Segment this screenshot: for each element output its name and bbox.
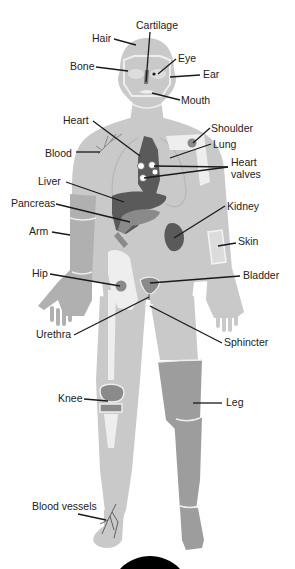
leader-arm [52,232,70,235]
label-eye: Eye [178,52,196,64]
label-heart-valves-line2: valves [231,168,261,180]
label-shoulder: Shoulder [211,122,254,134]
label-liver: Liver [38,175,61,187]
label-heart: Heart [63,114,89,126]
label-urethra: Urethra [36,328,71,340]
label-blood-vessels: Blood vessels [32,500,97,512]
label-knee: Knee [58,392,83,404]
label-cartilage: Cartilage [136,19,178,31]
label-mouth: Mouth [181,94,210,106]
label-pancreas: Pancreas [11,197,55,209]
skin-patch [208,230,226,264]
label-leg: Leg [226,396,244,408]
label-skin: Skin [238,235,259,247]
shoulder-joint [188,139,197,148]
tibia-top [100,404,122,412]
right-leg-upper [150,296,198,360]
knee-cap-outline [100,384,124,402]
left-foot [93,510,124,548]
label-hair: Hair [92,32,112,44]
bottom-dark-shape [120,556,180,569]
eye [152,72,155,75]
label-ear: Ear [203,68,220,80]
label-kidney: Kidney [227,200,260,212]
label-heart-valves-line1: Heart [231,156,257,168]
eye-socket-left [128,69,144,79]
label-bone: Bone [70,60,95,72]
leader-blood-vessels [78,514,106,520]
label-blood: Blood [45,147,72,159]
label-sphincter: Sphincter [224,336,269,348]
left-arm [70,194,96,280]
right-shin [174,418,202,510]
label-hip: Hip [32,267,48,279]
anatomy-diagram: Cartilage Hair Eye Bone Ear Mouth Heart … [0,0,295,569]
left-fingers [50,306,72,326]
label-bladder: Bladder [243,269,280,281]
label-lung: Lung [213,138,237,150]
right-foot [180,508,204,550]
label-arm: Arm [29,225,49,237]
sphincter [145,304,153,306]
